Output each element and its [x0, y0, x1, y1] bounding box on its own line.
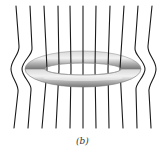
field-line-8 [108, 6, 110, 128]
field-line-7 [95, 6, 96, 128]
figure-caption: (b) [0, 136, 165, 146]
field-line-4 [56, 6, 59, 128]
field-line-11 [148, 6, 156, 128]
field-line-5 [70, 6, 71, 128]
field-line-1 [11, 6, 19, 128]
figure-canvas [0, 0, 165, 156]
